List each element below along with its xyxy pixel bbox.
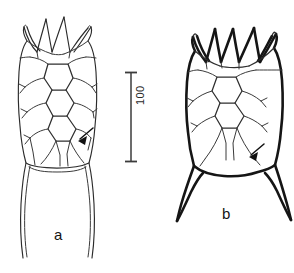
- specimen-a: [18, 17, 97, 258]
- specimen-label-b: b: [222, 206, 230, 221]
- figure-canvas: a b 100: [0, 0, 294, 273]
- specimen-b-plate-sutures: [187, 48, 282, 166]
- specimen-a-anterior-spines: [24, 17, 91, 52]
- specimen-a-plate-sutures: [19, 41, 97, 166]
- scale-bar-value-label: 100: [134, 85, 146, 105]
- specimen-label-a: a: [54, 227, 62, 242]
- figure-drawing: [0, 0, 294, 273]
- arrow-specimen-b: [249, 144, 264, 161]
- specimen-b: [177, 28, 291, 221]
